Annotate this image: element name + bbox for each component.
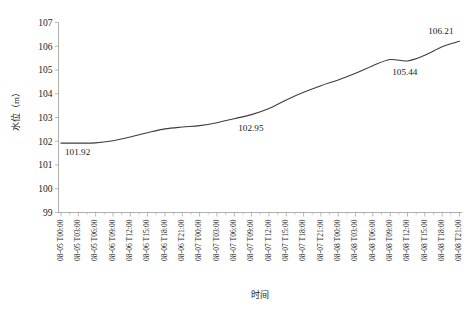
- y-axis-tick-label: 100: [38, 184, 53, 194]
- x-axis-tick-label: 08-08 T06:00: [368, 219, 377, 261]
- y-axis-title: 水位（m）: [10, 88, 21, 131]
- y-axis-tick-label: 106: [38, 42, 53, 52]
- y-axis-tick-label: 101: [38, 160, 53, 170]
- data-point-value-label: 105.44: [392, 67, 418, 77]
- data-point-value-label: 102.95: [238, 123, 264, 133]
- x-axis-tick-label: 08-07 T12:00: [264, 219, 273, 261]
- x-axis-tick-label: 08-08 T00:00: [333, 219, 342, 261]
- x-axis-tick-label: 08-05 T00:00: [56, 219, 65, 261]
- x-axis-tick-label: 08-05 T06:00: [90, 219, 99, 261]
- water-level-line-chart: 10710610510410310210110099 101.92102.951…: [0, 0, 473, 312]
- y-axis-tick-label: 102: [38, 137, 53, 147]
- x-axis-tick-label: 08-06 T21:00: [177, 219, 186, 261]
- x-axis-tick-label: 08-07 T21:00: [316, 219, 325, 261]
- x-axis-tick-label: 08-05 T03:00: [73, 219, 82, 261]
- x-axis-tick-label: 08-06 T09:00: [108, 219, 117, 261]
- y-axis-tick-label: 104: [38, 89, 53, 99]
- x-axis-tick-label: 08-07 T15:00: [281, 219, 290, 261]
- x-axis-tick-label: 08-06 T18:00: [160, 219, 169, 261]
- x-axis-tick-label: 08-08 T12:00: [402, 219, 411, 261]
- x-axis-tick-label: 08-08 T09:00: [385, 219, 394, 261]
- x-axis-tick-label: 08-08 T03:00: [350, 219, 359, 261]
- y-axis-tick-label: 105: [38, 65, 53, 75]
- x-axis-tick-label: 08-07 T03:00: [212, 219, 221, 261]
- data-point-value-label: 106.21: [428, 26, 454, 36]
- x-axis-tick-label: 08-07 T18:00: [298, 219, 307, 261]
- x-axis-tick-label: 08-07 T06:00: [229, 219, 238, 261]
- x-axis-tick-label: 08-08 T15:00: [420, 219, 429, 261]
- x-axis-tick-label: 08-06 T15:00: [142, 219, 151, 261]
- chart-canvas: 10710610510410310210110099 101.92102.951…: [0, 0, 473, 312]
- y-axis-tick-label: 107: [38, 18, 53, 28]
- y-axis-tick-label: 99: [43, 208, 53, 218]
- x-axis-tick-label: 08-07 T09:00: [246, 219, 255, 261]
- x-axis-tick-label: 08-07 T00:00: [194, 219, 203, 261]
- y-axis-tick-label: 103: [38, 113, 53, 123]
- x-axis-tick-label: 08-08 T21:00: [454, 219, 463, 261]
- x-axis-title: 时间: [251, 289, 269, 300]
- data-point-value-label: 101.92: [65, 147, 91, 157]
- x-axis-tick-label: 08-06 T12:00: [125, 219, 134, 261]
- x-axis-tick-label: 08-08 T18:00: [437, 219, 446, 261]
